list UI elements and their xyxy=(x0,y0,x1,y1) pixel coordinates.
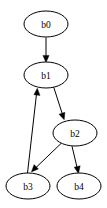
edge-b2-to-b4[interactable] xyxy=(72,146,80,173)
directed-graph: b0 b1 b2 b3 b4 xyxy=(0,0,107,208)
node-b1-label: b1 xyxy=(41,71,51,81)
edge-b1-to-b2-line xyxy=(54,87,63,115)
edge-b3-to-b1-line xyxy=(28,94,37,173)
edge-b0-to-b1[interactable] xyxy=(43,38,49,63)
edge-b2-to-b4-arrowhead xyxy=(74,166,80,174)
edge-b3-to-b1-arrowhead xyxy=(34,88,40,95)
node-b4[interactable]: b4 xyxy=(57,173,101,199)
node-b4-label: b4 xyxy=(74,182,84,192)
edge-b1-to-b2[interactable] xyxy=(54,87,65,120)
node-b1[interactable]: b1 xyxy=(24,62,68,88)
edge-b2-to-b4-line xyxy=(72,146,77,168)
node-b0-label: b0 xyxy=(41,20,51,30)
node-b0[interactable]: b0 xyxy=(24,11,68,37)
node-b2[interactable]: b2 xyxy=(53,120,97,146)
diagram-canvas: b0 b1 b2 b3 b4 xyxy=(0,0,107,208)
edge-b2-to-b3-line xyxy=(36,143,62,168)
edge-b0-to-b1-arrowhead xyxy=(43,55,49,62)
node-b3-label: b3 xyxy=(23,182,33,192)
edge-b1-to-b2-arrowhead xyxy=(59,112,65,120)
node-b2-label: b2 xyxy=(70,129,80,139)
edge-b3-to-b1[interactable] xyxy=(28,88,41,173)
node-b3[interactable]: b3 xyxy=(6,173,50,199)
edge-b2-to-b3[interactable] xyxy=(31,143,61,172)
